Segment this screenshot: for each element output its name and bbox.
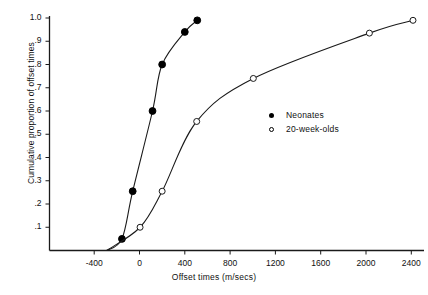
legend-item-1: 20-week-olds	[262, 122, 339, 136]
data-point-filled	[194, 17, 201, 24]
legend-marker	[269, 113, 274, 118]
data-point-open	[366, 30, 372, 36]
filled-circle-icon	[262, 113, 280, 118]
legend-label: Neonates	[280, 110, 324, 120]
data-point-filled	[159, 61, 166, 68]
data-point-filled	[129, 188, 136, 195]
open-circle-icon	[262, 127, 280, 132]
chart-legend: Neonates20-week-olds	[262, 108, 339, 136]
data-point-open	[410, 17, 416, 23]
chart-figure: Cumulative proportion of offset times Of…	[0, 0, 428, 295]
legend-item-0: Neonates	[262, 108, 339, 122]
legend-marker	[269, 127, 274, 132]
data-point-open	[159, 188, 165, 194]
plot-area	[0, 0, 428, 295]
data-point-filled	[181, 29, 188, 36]
data-point-open	[194, 118, 200, 124]
data-point-filled	[149, 108, 156, 115]
data-point-open	[250, 75, 256, 81]
series-line-0	[107, 20, 198, 250]
data-point-open	[137, 224, 143, 230]
series-line-1	[107, 20, 413, 250]
legend-label: 20-week-olds	[280, 124, 339, 134]
